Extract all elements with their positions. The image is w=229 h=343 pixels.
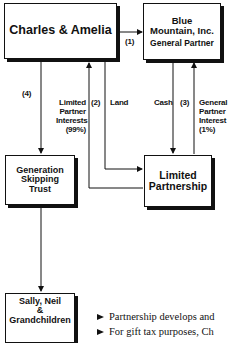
edge-2-step-label: (2)	[91, 98, 100, 107]
edge-4-step-label: (4)	[22, 89, 31, 98]
edge-2-line2: Partner	[56, 107, 86, 116]
node-sally-neil-grandchildren: Sally, Neil & Grandchildren	[5, 293, 75, 343]
node-generation-skipping-trust: Generation Skipping Trust	[5, 155, 75, 205]
edge-3-line1: General	[199, 98, 229, 107]
triangle-bullet-icon	[97, 314, 104, 320]
node-blue-mountain-role: General Partner	[150, 39, 214, 48]
node-sally-line3: Grandchildren	[9, 316, 71, 325]
triangle-bullet-icon	[97, 329, 104, 335]
node-blue-mountain: Blue Mountain, Inc. General Partner	[143, 3, 221, 60]
edge-2-line1: Limited	[56, 98, 86, 107]
node-limited-partnership: Limited Partnership	[144, 155, 212, 207]
note-text: For gift tax purposes, Ch	[109, 324, 214, 339]
notes-list: Partnership develops and For gift tax pu…	[97, 309, 229, 339]
note-text: Partnership develops and	[109, 309, 215, 324]
node-blue-mountain-line2: Mountain, Inc.	[150, 26, 214, 36]
note-item: Partnership develops and	[97, 309, 229, 324]
edge-2-line4: (99%)	[56, 125, 86, 134]
node-charles-amelia: Charles & Amelia	[4, 3, 117, 59]
edge-2-description: Limited Partner Interests (99%)	[56, 98, 86, 134]
edge-3-description: General Partner Interest (1%)	[199, 98, 229, 134]
edge-land-label: Land	[110, 98, 128, 107]
edge-2-line3: Interests	[56, 116, 86, 125]
note-item: For gift tax purposes, Ch	[97, 324, 229, 339]
edge-3-line3: Interest	[199, 116, 229, 125]
edge-cash-label: Cash	[154, 98, 173, 107]
edge-1-step-label: (1)	[125, 37, 134, 46]
edge-3-line2: Partner	[199, 107, 229, 116]
edge-3-line4: (1%)	[199, 125, 229, 134]
node-lp-line2: Partnership	[149, 181, 207, 192]
node-charles-label: Charles & Amelia	[9, 24, 111, 37]
node-gst-line3: Trust	[29, 185, 51, 194]
edge-3-step-label: (3)	[180, 98, 189, 107]
